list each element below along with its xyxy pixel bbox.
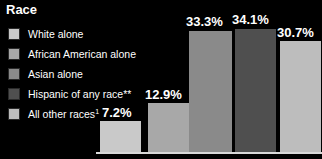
plot-area: 7.2% 12.9% 33.3% 34.1% 30.7% [0,0,322,159]
bar-all-other-races[interactable] [280,41,321,152]
bar-african-american-alone[interactable] [148,103,189,152]
axis-baseline [96,152,322,154]
bar-value-label-all-other-races: 30.7% [277,26,314,39]
bar-value-label-white-alone: 7.2% [102,106,132,119]
bar-hispanic-of-any-race[interactable] [235,29,276,152]
bar-value-label-asian-alone: 33.3% [186,15,223,28]
bar-value-label-african-american-alone: 12.9% [145,88,182,101]
race-bar-chart: Race White alone African American alone … [0,0,322,159]
bar-asian-alone[interactable] [189,31,232,152]
bar-white-alone[interactable] [100,121,141,152]
bar-value-label-hispanic-of-any-race: 34.1% [232,13,269,26]
